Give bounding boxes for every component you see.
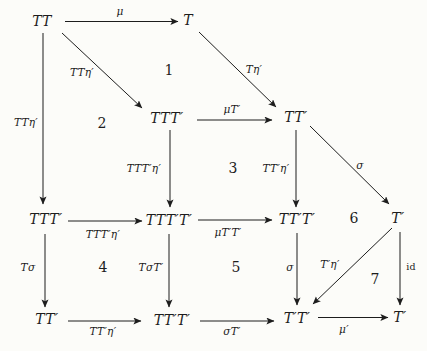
arrow-label-Teta-diagonal: Tη′: [246, 63, 263, 75]
nodes-layer: TTTTTT′TT′TTT′TTT′T′TT′T′T′TT′TT′T′T′T′T…: [29, 12, 407, 328]
arrow-label-muTpTp-horizontal: μT′T′: [214, 226, 241, 238]
node-TTTpTp-mid: TTT′T′: [146, 212, 193, 228]
node-TT-top: TT: [32, 13, 53, 29]
node-TTpTp-right: TT′T′: [279, 211, 316, 227]
arrows-layer: [43, 22, 400, 322]
arrow-label-sigma-vertical: σ: [286, 261, 294, 273]
arrow-label-sigma-diagonal: σ: [356, 159, 364, 171]
arrow-label-Tpeta-diagonal: T′η′: [320, 258, 340, 270]
node-Tp-right: T′: [391, 210, 405, 226]
diagram-canvas: TTTTTT′TT′TTT′TTT′T′TT′T′T′TT′TT′T′T′T′T…: [0, 0, 427, 351]
arrow-label-muTp-mid: μT′: [223, 103, 240, 115]
commutative-diagram-page: TTTTTT′TT′TTT′TTT′T′TT′T′T′TT′TT′T′T′T′T…: [0, 0, 427, 351]
region-number-3: 3: [229, 160, 238, 176]
node-TTTp-mid: TTT′: [150, 110, 184, 126]
region-number-6: 6: [350, 210, 359, 226]
regions-layer: 1234567: [98, 62, 380, 287]
arrow-label-TTeta-left-vertical: TTη′: [14, 116, 38, 128]
arrow-sigma-diagonal: [310, 126, 389, 204]
region-number-7: 7: [371, 271, 380, 287]
arrow-label-TTeta-diagonal: TTη′: [70, 66, 94, 78]
node-TTp-bottom: TT′: [35, 311, 59, 327]
region-number-1: 1: [165, 62, 174, 78]
node-TTp-mid: TT′: [284, 109, 308, 125]
arrow-label-TsigmaTp-vertical: TσT′: [139, 261, 164, 273]
arrow-label-TTpeta-vertical: TT′η′: [263, 162, 290, 174]
arrow-label-sigmaTp-bottom: σT′: [223, 325, 241, 337]
arrow-label-TTpeta-bottom: TT′η′: [90, 325, 117, 337]
arrow-Teta-diagonal: [199, 32, 276, 107]
node-T-top: T: [183, 12, 194, 28]
arrow-label-TTTpeta-vertical: TTT′η′: [127, 162, 162, 174]
region-number-2: 2: [98, 115, 107, 131]
region-number-5: 5: [232, 259, 241, 275]
arrow-label-Tsigma-vertical: Tσ: [21, 261, 36, 273]
arrow-label-mu-top: μ: [116, 5, 123, 17]
node-TTTp-left: TTT′: [29, 211, 63, 227]
node-Tp-bottom: T′: [393, 309, 407, 325]
node-TTpTp-bottom: TT′T′: [154, 312, 191, 328]
arrow-label-TTTpeta-horizontal: TTT′η′: [86, 228, 121, 240]
arrow-label-id-vertical: id: [406, 261, 416, 272]
region-number-4: 4: [99, 259, 108, 275]
arrow-label-mup-bottom: μ′: [339, 323, 349, 335]
node-TpTp-bottom: T′T′: [284, 310, 311, 326]
